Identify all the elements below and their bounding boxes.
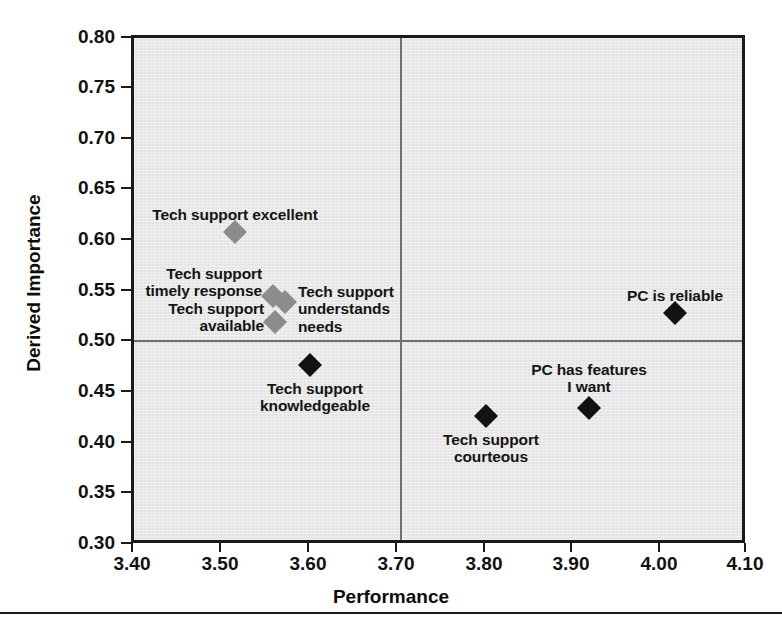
- y-tick-label: 0.45: [55, 380, 115, 402]
- x-tick-mark: [219, 543, 221, 552]
- x-tick-mark: [307, 543, 309, 552]
- point-label-tech-support-timely-response: Tech support timely response: [145, 265, 262, 300]
- y-tick-label: 0.50: [55, 329, 115, 351]
- data-point-pc-has-features-i-want[interactable]: [577, 396, 601, 420]
- x-tick-mark: [658, 543, 660, 552]
- data-point-tech-support-knowledgeable[interactable]: [298, 353, 322, 377]
- y-tick-label: 0.60: [55, 228, 115, 250]
- y-tick-mark: [121, 137, 131, 139]
- scatter-chart-figure: Tech support excellent Tech support time…: [0, 0, 782, 630]
- quadrant-line-horizontal: [134, 340, 742, 342]
- y-tick-label: 0.70: [55, 127, 115, 149]
- y-tick-label: 0.65: [55, 177, 115, 199]
- x-tick-label: 3.70: [378, 553, 415, 575]
- x-tick-label: 3.90: [553, 553, 590, 575]
- y-tick-mark: [121, 339, 131, 341]
- bottom-divider-rule: [0, 612, 782, 614]
- x-axis-title: Performance: [0, 586, 782, 608]
- x-tick-mark: [570, 543, 572, 552]
- y-tick-label: 0.75: [55, 76, 115, 98]
- point-label-tech-support-understands-needs: Tech support understands needs: [298, 283, 394, 335]
- point-label-tech-support-knowledgeable: Tech support knowledgeable: [260, 380, 370, 415]
- y-tick-label: 0.80: [55, 26, 115, 48]
- point-label-tech-support-excellent: Tech support excellent: [152, 206, 317, 223]
- x-tick-label: 3.60: [290, 553, 327, 575]
- y-axis-title: Derived Importance: [23, 83, 45, 483]
- y-tick-mark: [121, 542, 131, 544]
- x-tick-label: 4.10: [727, 553, 764, 575]
- data-point-tech-support-courteous[interactable]: [474, 404, 498, 428]
- x-tick-label: 3.40: [114, 553, 151, 575]
- x-tick-label: 3.50: [202, 553, 239, 575]
- y-tick-label: 0.30: [55, 532, 115, 554]
- data-point-tech-support-available[interactable]: [263, 310, 287, 334]
- y-tick-mark: [121, 289, 131, 291]
- y-tick-mark: [121, 238, 131, 240]
- x-tick-mark: [395, 543, 397, 552]
- quadrant-line-vertical: [400, 38, 402, 540]
- y-tick-mark: [121, 390, 131, 392]
- x-tick-mark: [744, 543, 746, 552]
- plot-area: Tech support excellent Tech support time…: [131, 35, 745, 543]
- point-label-pc-is-reliable: PC is reliable: [627, 287, 723, 304]
- y-tick-mark: [121, 187, 131, 189]
- y-tick-mark: [121, 86, 131, 88]
- point-label-tech-support-courteous: Tech support courteous: [443, 431, 539, 466]
- data-point-pc-is-reliable[interactable]: [663, 301, 687, 325]
- y-tick-mark: [121, 441, 131, 443]
- point-label-pc-has-features-i-want: PC has features I want: [531, 361, 647, 396]
- y-tick-label: 0.35: [55, 481, 115, 503]
- point-label-tech-support-available: Tech support available: [168, 300, 264, 335]
- y-tick-mark: [121, 491, 131, 493]
- y-tick-mark: [121, 36, 131, 38]
- x-tick-mark: [483, 543, 485, 552]
- y-tick-label: 0.55: [55, 279, 115, 301]
- x-tick-mark: [131, 543, 133, 552]
- x-tick-label: 4.00: [641, 553, 678, 575]
- data-point-tech-support-excellent[interactable]: [223, 220, 247, 244]
- y-tick-label: 0.40: [55, 431, 115, 453]
- x-tick-label: 3.80: [466, 553, 503, 575]
